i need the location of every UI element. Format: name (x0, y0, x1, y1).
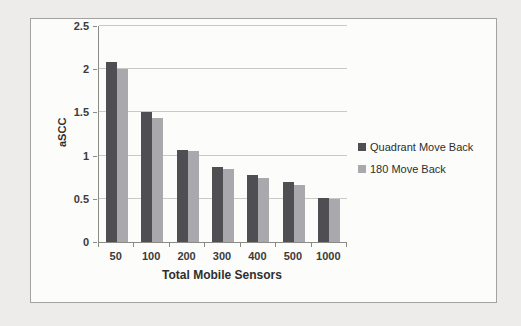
bar-group (312, 26, 347, 242)
x-axis-tick-mark (204, 243, 205, 247)
bar-180-move-back (152, 118, 163, 242)
y-tick-label: 2.5 (31, 20, 89, 32)
y-tick-label: 1.5 (31, 106, 89, 118)
bar-group (170, 26, 205, 242)
bar-quadrant-move-back (318, 198, 329, 242)
x-tick-label: 50 (98, 250, 133, 262)
bar-group (276, 26, 311, 242)
legend-item: 180 Move Back (358, 163, 473, 175)
legend-swatch-180-move-back (358, 165, 366, 173)
legend: Quadrant Move Back 180 Move Back (358, 141, 473, 185)
bar-quadrant-move-back (141, 112, 152, 242)
bar-quadrant-move-back (177, 150, 188, 242)
y-axis-title: aSCC (56, 133, 68, 147)
x-axis-tick-mark (98, 243, 99, 247)
plot-area (98, 26, 347, 243)
x-axis-tick-mark (133, 243, 134, 247)
y-tick-label: 2 (31, 63, 89, 75)
y-axis-tick-mark (93, 112, 97, 113)
y-axis-tick-mark (93, 156, 97, 157)
bar-quadrant-move-back (247, 175, 258, 242)
y-tick-label: 1 (31, 150, 89, 162)
bar-group (205, 26, 240, 242)
x-axis-title: Total Mobile Sensors (98, 268, 346, 282)
bar-group (99, 26, 134, 242)
chart-frame: aSCC 00.511.522.5 501002003004005001000 … (30, 18, 497, 303)
x-tick-label: 200 (169, 250, 204, 262)
x-tick-label: 500 (275, 250, 310, 262)
bar-180-move-back (294, 185, 305, 242)
x-axis-tick-mark (275, 243, 276, 247)
legend-item: Quadrant Move Back (358, 141, 473, 153)
x-tick-label: 1000 (311, 250, 346, 262)
x-axis-tick-mark (311, 243, 312, 247)
x-axis-tick-mark (240, 243, 241, 247)
bar-quadrant-move-back (106, 62, 117, 242)
bar-group (134, 26, 169, 242)
bar-180-move-back (258, 178, 269, 242)
bar-quadrant-move-back (212, 167, 223, 242)
y-tick-label: 0 (31, 236, 89, 248)
x-tick-label: 100 (133, 250, 168, 262)
bar-180-move-back (117, 69, 128, 242)
x-tick-label: 300 (204, 250, 239, 262)
y-tick-label: 0.5 (31, 193, 89, 205)
bar-180-move-back (329, 199, 340, 242)
page: { "page": { "background_color": "#edecea… (0, 0, 521, 326)
x-axis-tick-mark (346, 243, 347, 247)
y-axis-tick-mark (93, 69, 97, 70)
bar-180-move-back (188, 151, 199, 242)
legend-swatch-quadrant-move-back (358, 143, 366, 151)
y-axis-tick-mark (93, 242, 97, 243)
legend-label: Quadrant Move Back (370, 141, 473, 153)
y-axis-tick-mark (93, 26, 97, 27)
bar-quadrant-move-back (283, 182, 294, 242)
x-axis-tick-mark (169, 243, 170, 247)
bar-180-move-back (223, 169, 234, 242)
legend-label: 180 Move Back (370, 163, 446, 175)
y-axis-tick-mark (93, 199, 97, 200)
bar-group (241, 26, 276, 242)
x-tick-label: 400 (240, 250, 275, 262)
